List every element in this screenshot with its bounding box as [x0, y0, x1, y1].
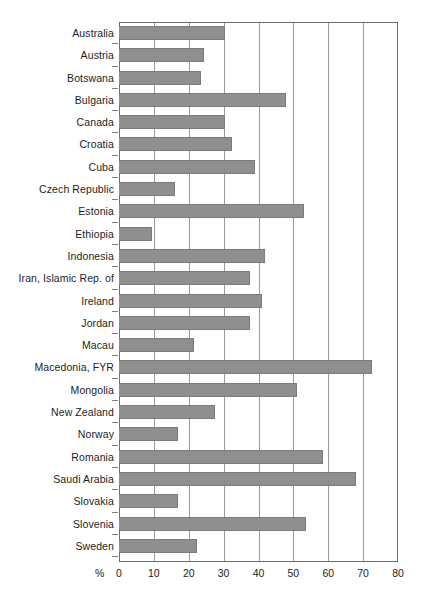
bar-track [119, 468, 398, 490]
bar [119, 93, 286, 107]
category-label: Czech Republic [0, 178, 114, 200]
category-label: Jordan [0, 312, 114, 334]
bar [119, 427, 178, 441]
bar [119, 227, 152, 241]
y-axis-tick [112, 556, 118, 557]
category-label: Botswana [0, 67, 114, 89]
x-axis-tick-label: 20 [174, 567, 204, 579]
category-label: New Zealand [0, 401, 114, 423]
bar-track [119, 67, 398, 89]
x-axis-tick-label: 80 [383, 567, 413, 579]
category-label: Macau [0, 334, 114, 356]
bar-track [119, 379, 398, 401]
category-label: Mongolia [0, 379, 114, 401]
category-label: Australia [0, 22, 114, 44]
bar [119, 160, 255, 174]
category-label: Ethiopia [0, 223, 114, 245]
bar-rows: AustraliaAustriaBotswanaBulgariaCanadaCr… [0, 22, 421, 562]
bar-track [119, 267, 398, 289]
bar-track [119, 223, 398, 245]
bar [119, 271, 250, 285]
category-label: Iran, Islamic Rep. of [0, 267, 114, 289]
bar [119, 450, 323, 464]
bar-track [119, 200, 398, 222]
bar-row: Saudi Arabia [0, 468, 421, 490]
bar [119, 360, 372, 374]
bar-row: Norway [0, 423, 421, 445]
bar-track [119, 156, 398, 178]
category-label: Bulgaria [0, 89, 114, 111]
bar-track [119, 401, 398, 423]
category-label: Saudi Arabia [0, 468, 114, 490]
bar-row: Ethiopia [0, 223, 421, 245]
bar-row: Australia [0, 22, 421, 44]
bar [119, 316, 250, 330]
category-label: Slovenia [0, 513, 114, 535]
bar-row: Mongolia [0, 379, 421, 401]
bar-track [119, 423, 398, 445]
bar [119, 204, 304, 218]
category-label: Croatia [0, 133, 114, 155]
bar-track [119, 356, 398, 378]
bar [119, 137, 232, 151]
bar [119, 26, 225, 40]
x-axis-tick-label: 70 [348, 567, 378, 579]
x-axis-tick-label: 50 [278, 567, 308, 579]
bar-track [119, 111, 398, 133]
category-label: Cuba [0, 156, 114, 178]
x-axis-tick-label: 30 [209, 567, 239, 579]
bar-row: Estonia [0, 200, 421, 222]
bar-track [119, 535, 398, 557]
bar-track [119, 44, 398, 66]
bar [119, 405, 215, 419]
bar-row: Slovakia [0, 490, 421, 512]
horizontal-bar-chart: AustraliaAustriaBotswanaBulgariaCanadaCr… [0, 0, 421, 598]
category-label: Austria [0, 44, 114, 66]
bar-track [119, 513, 398, 535]
bar-track [119, 446, 398, 468]
bar-row: Czech Republic [0, 178, 421, 200]
bar [119, 294, 262, 308]
bar-track [119, 178, 398, 200]
bar-row: Botswana [0, 67, 421, 89]
bar-row: Ireland [0, 290, 421, 312]
category-label: Canada [0, 111, 114, 133]
bar-row: Cuba [0, 156, 421, 178]
bar-row: Austria [0, 44, 421, 66]
bar [119, 472, 356, 486]
bar-row: Macau [0, 334, 421, 356]
bar-row: Canada [0, 111, 421, 133]
bar-row: Croatia [0, 133, 421, 155]
category-label: Estonia [0, 200, 114, 222]
x-axis-unit-label: % [95, 567, 104, 579]
bar-row: Jordan [0, 312, 421, 334]
bar-track [119, 312, 398, 334]
bar-track [119, 133, 398, 155]
bar [119, 517, 306, 531]
bar-row: Romania [0, 446, 421, 468]
x-axis-tick-label: 40 [244, 567, 274, 579]
x-axis-tick-label: 10 [139, 567, 169, 579]
category-label: Ireland [0, 290, 114, 312]
bar-row: Indonesia [0, 245, 421, 267]
category-label: Romania [0, 446, 114, 468]
bar-row: Slovenia [0, 513, 421, 535]
bar-row: Iran, Islamic Rep. of [0, 267, 421, 289]
bar [119, 182, 175, 196]
category-label: Slovakia [0, 490, 114, 512]
bar [119, 539, 197, 553]
bar-row: Sweden [0, 535, 421, 557]
bar [119, 338, 194, 352]
x-axis-tick-label: 60 [313, 567, 343, 579]
bar-track [119, 290, 398, 312]
bar [119, 115, 225, 129]
category-label: Sweden [0, 535, 114, 557]
cropped-caption-artifact [34, 0, 249, 7]
bar-track [119, 22, 398, 44]
bar [119, 383, 297, 397]
x-axis: % 01020304050607080 [0, 563, 421, 589]
category-label: Indonesia [0, 245, 114, 267]
bar [119, 48, 204, 62]
bar-row: Macedonia, FYR [0, 356, 421, 378]
category-label: Macedonia, FYR [0, 356, 114, 378]
